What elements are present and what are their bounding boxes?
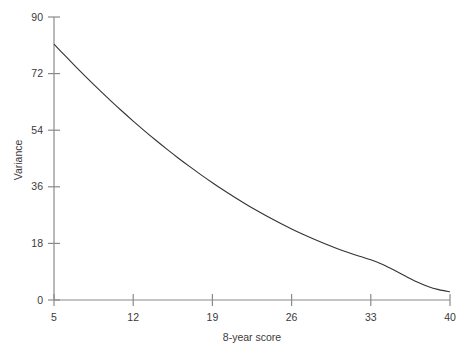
y-tick-label: 18 (31, 237, 43, 249)
x-tick-label: 26 (286, 311, 298, 323)
x-tick-label: 19 (207, 311, 219, 323)
axis-lines (54, 17, 450, 300)
y-axis-title: Variance (12, 140, 24, 181)
chart-container: 01836547290 51219263340 Variance 8-year … (0, 0, 471, 354)
y-tick-label: 36 (31, 180, 43, 192)
y-tick-label: 54 (31, 124, 43, 136)
x-axis-title: 8-year score (223, 331, 282, 343)
y-tick-label: 90 (31, 11, 43, 23)
variance-curve (54, 44, 450, 292)
x-tick-label: 12 (127, 311, 139, 323)
x-tick-label: 40 (444, 311, 456, 323)
y-tick-label: 0 (37, 294, 43, 306)
x-axis-tick-labels: 51219263340 (51, 311, 456, 323)
variance-decay-line-chart: 01836547290 51219263340 Variance 8-year … (0, 0, 471, 354)
x-tick-label: 5 (51, 311, 57, 323)
x-tick-label: 33 (365, 311, 377, 323)
y-axis-tick-labels: 01836547290 (31, 11, 43, 306)
y-tick-label: 72 (31, 67, 43, 79)
